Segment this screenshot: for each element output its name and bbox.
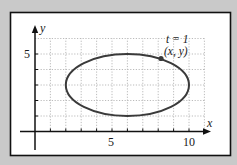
x-tick-label-10: 10 xyxy=(183,135,195,149)
x-axis-label: x xyxy=(206,116,213,130)
x-tick-label-5: 5 xyxy=(108,135,114,149)
annotation-xy-label: (x, y) xyxy=(164,45,188,58)
figure: 5 10 5 x y t = 1 (x, y) xyxy=(0,0,237,165)
annotation-t-label: t = 1 xyxy=(166,33,188,45)
y-axis-label: y xyxy=(39,21,46,35)
diagram-canvas: 5 10 5 x y t = 1 (x, y) xyxy=(0,0,237,165)
point-marker xyxy=(158,56,163,61)
y-tick-label-5: 5 xyxy=(24,47,30,61)
